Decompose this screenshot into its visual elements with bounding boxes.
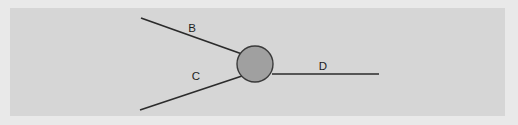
diagram-canvas: B C D (0, 0, 518, 125)
interaction-diagram-svg: B C D (0, 0, 518, 125)
interaction-vertex-blob (237, 46, 273, 82)
leg-label-c: C (192, 70, 200, 82)
leg-label-d: D (319, 60, 327, 72)
leg-label-b: B (188, 22, 196, 34)
